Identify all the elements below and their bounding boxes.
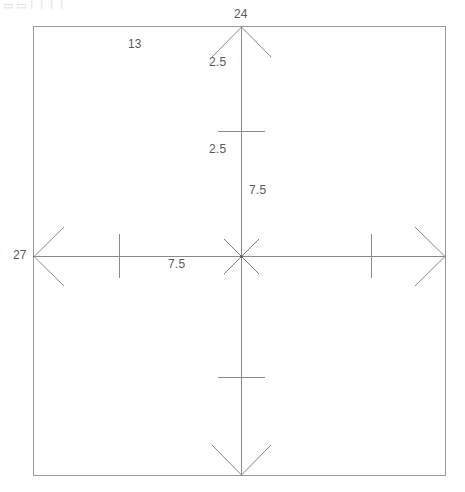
- dimension-label-2p5-mid: 2.5: [209, 143, 226, 155]
- dimension-drawing-svg: [0, 0, 465, 492]
- dimension-label-13: 13: [128, 38, 142, 50]
- dimension-label-27: 27: [13, 249, 27, 261]
- dimension-label-24: 24: [234, 8, 248, 20]
- dimension-label-7p5-vertical: 7.5: [249, 184, 266, 196]
- dimension-label-7p5-horizontal: 7.5: [168, 258, 185, 270]
- center-point-marker: [240, 255, 243, 258]
- dimension-label-2p5-top: 2.5: [209, 56, 226, 68]
- drawing-canvas: ▭ ▭ │ │ │ │ 24 13 2.5 2.5: [0, 0, 465, 492]
- drawing-frame: [34, 27, 446, 476]
